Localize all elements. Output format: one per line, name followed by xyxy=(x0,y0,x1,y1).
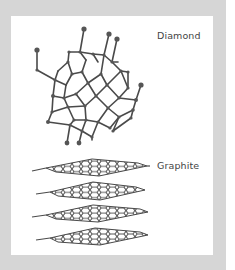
diamond-label: Diamond xyxy=(157,30,201,41)
graphite-sheet-3 xyxy=(32,205,148,222)
graphite-label: Graphite xyxy=(157,160,199,171)
graphite-sheet-4 xyxy=(36,228,148,245)
graphite-sheet-2 xyxy=(36,182,145,200)
graphite-sheet-1 xyxy=(32,159,150,176)
